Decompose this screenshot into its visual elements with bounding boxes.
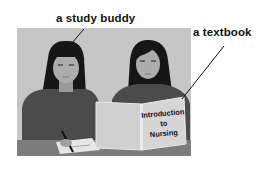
writing-hand xyxy=(60,139,72,147)
left-sweater xyxy=(22,89,100,140)
book-title-line2: to xyxy=(160,119,168,129)
left-face xyxy=(53,53,79,83)
book-left-page xyxy=(96,102,142,150)
illustration: Introduction to Nursing xyxy=(0,0,268,169)
left-bangs-fill xyxy=(52,48,80,57)
textbook: Introduction to Nursing xyxy=(96,97,186,150)
